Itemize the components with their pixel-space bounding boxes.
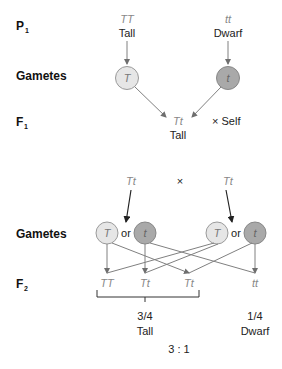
- row-label-gametes-1: Gametes: [16, 69, 67, 83]
- or-connector: or: [231, 227, 241, 239]
- f1-phenotype: Tall: [170, 129, 187, 141]
- row-label-gametes-2: Gametes: [16, 227, 67, 241]
- f2-genotype-Tt-2: Tt: [184, 277, 195, 289]
- svg-text:1: 1: [25, 27, 29, 34]
- self-cross-label: × Self: [212, 115, 241, 127]
- dwarf-fraction: 1/4: [247, 310, 262, 322]
- gamete-t-left: t: [134, 222, 156, 244]
- gamete-t-right: t: [244, 222, 266, 244]
- gamete-T-left: T: [96, 222, 118, 244]
- svg-text:P: P: [16, 19, 24, 33]
- parent-1-phenotype: Tall: [119, 27, 136, 39]
- or-connector: or: [121, 227, 131, 239]
- svg-text:F: F: [16, 277, 23, 291]
- gamete-T-right: T: [206, 222, 228, 244]
- parent-1-genotype: TT: [120, 13, 135, 25]
- grouping-bracket: [97, 290, 199, 302]
- gamete-T-parent: T: [116, 67, 139, 90]
- arrow-icon: [192, 87, 221, 117]
- f2-genotype-Tt-1: Tt: [140, 277, 151, 289]
- f1-genotype: Tt: [173, 115, 184, 127]
- cross-left-genotype: Tt: [126, 175, 137, 187]
- parent-2-phenotype: Dwarf: [214, 27, 244, 39]
- svg-text:1: 1: [24, 123, 28, 130]
- cross-right-genotype: Tt: [223, 175, 234, 187]
- gamete-t-parent: t: [217, 67, 240, 90]
- svg-text:2: 2: [24, 285, 28, 292]
- tall-fraction: 3/4: [137, 310, 152, 322]
- cross-symbol: ×: [177, 175, 183, 187]
- gamete-combination-lines: [107, 243, 255, 273]
- parent-2-genotype: tt: [225, 13, 232, 25]
- row-label-f2: F 2: [16, 277, 28, 292]
- monohybrid-cross-diagram: P 1 Gametes F 1 Gametes F 2 TT Tall tt D…: [0, 0, 282, 369]
- row-label-p1: P 1: [16, 19, 29, 34]
- tall-label: Tall: [137, 325, 154, 337]
- arrow-down-icon: [226, 190, 232, 222]
- phenotypic-ratio: 3 : 1: [168, 343, 189, 355]
- arrow-down-icon: [126, 190, 131, 222]
- dwarf-label: Dwarf: [241, 325, 271, 337]
- arrow-icon: [135, 87, 166, 117]
- svg-text:F: F: [16, 115, 23, 129]
- f2-genotype-TT: TT: [100, 277, 115, 289]
- f2-genotype-tt: tt: [252, 277, 259, 289]
- row-label-f1: F 1: [16, 115, 28, 130]
